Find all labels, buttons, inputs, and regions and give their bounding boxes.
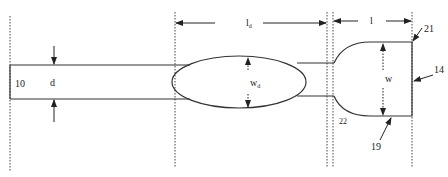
w-label: w [385,73,393,84]
device-outline [10,42,412,116]
w-d-label: wd [250,77,260,89]
extension-lines [10,12,412,172]
ref-21-label: 21 [424,23,434,34]
dogbone-diagram: 10 d ld wd l w 21 14 22 19 [0,0,448,177]
ref-19-label: 19 [371,141,381,152]
reference-leaders [380,28,433,140]
ref-22-label: 22 [339,117,347,126]
ref-14-label: 14 [434,64,444,75]
ref-10-label: 10 [15,78,25,89]
l-d-label: ld [246,17,252,29]
d-label: d [50,77,55,88]
l-label: l [370,15,373,26]
